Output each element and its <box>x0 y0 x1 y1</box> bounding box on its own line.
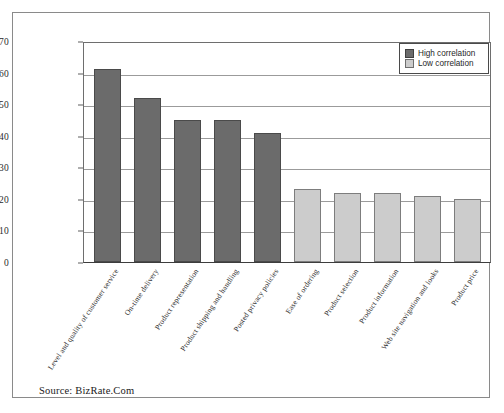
x-axis-tick-label: Product information <box>357 267 400 325</box>
legend-swatch-icon <box>405 59 414 68</box>
bar-series <box>84 43 490 262</box>
y-axis-tick-label: 50 <box>0 100 9 110</box>
legend-item-high-correlation: High correlation <box>405 49 483 58</box>
y-axis-tick-label: 0 <box>4 258 9 268</box>
y-axis-tick-label: 30 <box>0 163 9 173</box>
bar-low <box>294 189 321 262</box>
bar-low <box>374 193 401 262</box>
legend-item-label: Low correlation <box>418 59 474 68</box>
legend-item-label: High correlation <box>418 49 475 58</box>
bar-high <box>214 120 241 262</box>
bar-high <box>254 133 281 262</box>
x-axis-tick-label: Posted privacy policies <box>231 267 280 333</box>
plot-area <box>83 42 491 263</box>
source-note: Source: BizRate.Com <box>39 385 134 396</box>
legend-item-low-correlation: Low correlation <box>405 59 483 68</box>
bar-low <box>334 193 361 262</box>
chart-figure: 706050403020100 Level and quality of cus… <box>0 0 504 413</box>
bar-high <box>174 120 201 262</box>
bar-high <box>134 98 161 262</box>
y-axis-tick-label: 40 <box>0 132 9 142</box>
y-axis-tick-label: 10 <box>0 226 9 236</box>
x-axis-tick-label: Product representation <box>152 267 200 332</box>
bar-low <box>454 199 481 262</box>
x-axis-tick-label: On-time delivery <box>122 267 160 317</box>
chart-legend: High correlation Low correlation <box>399 43 489 74</box>
bar-high <box>94 69 121 262</box>
bar-low <box>414 196 441 262</box>
x-axis-tick-label: Product selection <box>322 267 360 318</box>
y-axis-tick-label: 60 <box>0 69 9 79</box>
legend-swatch-icon <box>405 49 414 58</box>
figure-frame: 706050403020100 Level and quality of cus… <box>12 12 490 398</box>
x-axis-tick-label: Product price <box>449 267 480 307</box>
y-axis-tick-label: 70 <box>0 37 9 47</box>
x-axis-tick-label: Ease of ordering <box>283 267 320 316</box>
x-axis-labels: Level and quality of customer serviceOn-… <box>83 263 491 373</box>
y-axis-tick-label: 20 <box>0 195 9 205</box>
